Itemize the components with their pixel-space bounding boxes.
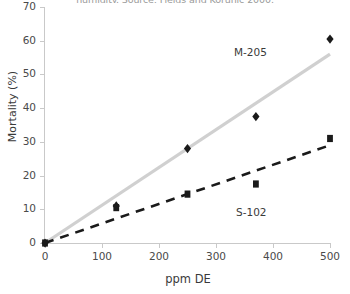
data-point-m-205 bbox=[326, 34, 333, 43]
series-label-m205: M-205 bbox=[234, 46, 267, 58]
data-point-s-102 bbox=[253, 180, 259, 187]
data-point-s-102 bbox=[185, 191, 191, 198]
y-tick-label: 20 bbox=[0, 170, 36, 181]
x-tick-label: 200 bbox=[139, 251, 179, 262]
y-axis-line bbox=[44, 7, 45, 244]
x-tick-label: 300 bbox=[196, 251, 236, 262]
y-tick-label: 0 bbox=[0, 237, 36, 248]
y-tick-mark bbox=[40, 41, 44, 42]
y-tick-mark bbox=[40, 176, 44, 177]
y-tick-mark bbox=[40, 74, 44, 75]
chart-title: humidity. Source: Fields and Korunic 200… bbox=[0, 0, 350, 3]
y-tick-mark bbox=[40, 142, 44, 143]
trendline-m-205 bbox=[45, 54, 330, 243]
data-point-s-102 bbox=[327, 135, 333, 142]
trendline-s-102 bbox=[45, 145, 330, 243]
x-tick-mark bbox=[216, 244, 217, 248]
x-axis-title: ppm DE bbox=[45, 272, 331, 286]
y-tick-mark bbox=[40, 7, 44, 8]
x-tick-mark bbox=[159, 244, 160, 248]
x-axis-line bbox=[45, 243, 331, 244]
y-tick-label: 60 bbox=[0, 35, 36, 46]
y-tick-mark bbox=[40, 243, 44, 244]
y-tick-mark bbox=[40, 209, 44, 210]
x-tick-label: 400 bbox=[253, 251, 293, 262]
x-tick-label: 100 bbox=[82, 251, 122, 262]
chart-data-layer bbox=[0, 0, 350, 294]
x-tick-label: 500 bbox=[310, 251, 350, 262]
data-point-s-102 bbox=[113, 204, 119, 211]
x-tick-mark bbox=[330, 244, 331, 248]
data-point-m-205 bbox=[252, 112, 259, 121]
x-tick-mark bbox=[102, 244, 103, 248]
data-point-m-205 bbox=[184, 144, 191, 153]
y-tick-label: 70 bbox=[0, 1, 36, 12]
x-tick-label: 0 bbox=[25, 251, 65, 262]
x-tick-mark bbox=[273, 244, 274, 248]
y-tick-mark bbox=[40, 108, 44, 109]
series-label-s102: S-102 bbox=[236, 206, 267, 218]
y-axis-title: Mortality (%) bbox=[6, 47, 19, 167]
chart-figure: humidity. Source: Fields and Korunic 200… bbox=[0, 0, 350, 294]
data-point-m-205 bbox=[113, 201, 120, 210]
x-tick-mark bbox=[45, 244, 46, 248]
y-tick-label: 10 bbox=[0, 203, 36, 214]
